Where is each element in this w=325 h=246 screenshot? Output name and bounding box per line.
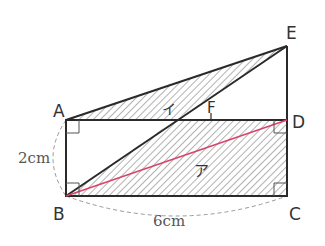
label-b: B [53, 204, 65, 224]
label-c: C [289, 204, 301, 224]
label-e: E [286, 23, 297, 43]
ab-measure-arc [53, 120, 66, 196]
label-region-a: ア [194, 162, 209, 180]
label-a: A [53, 101, 65, 121]
right-angle-a [66, 120, 79, 133]
geometry-diagram: A B C D E F イ ア 2cm 6cm [0, 0, 325, 246]
measure-bc: 6cm [153, 212, 185, 230]
label-f: F [207, 99, 216, 117]
label-region-i: イ [162, 101, 176, 117]
measure-ab: 2cm [18, 149, 50, 167]
label-d: D [292, 112, 305, 132]
